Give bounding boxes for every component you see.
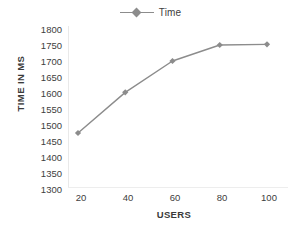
data-point-80 <box>217 42 223 48</box>
plot-area <box>0 0 301 232</box>
series-markers-time <box>75 41 270 136</box>
series-line-time <box>78 44 267 133</box>
data-point-100 <box>264 41 270 47</box>
line-chart: Time 1800 1750 1700 1650 1600 1550 1500 … <box>0 0 301 232</box>
